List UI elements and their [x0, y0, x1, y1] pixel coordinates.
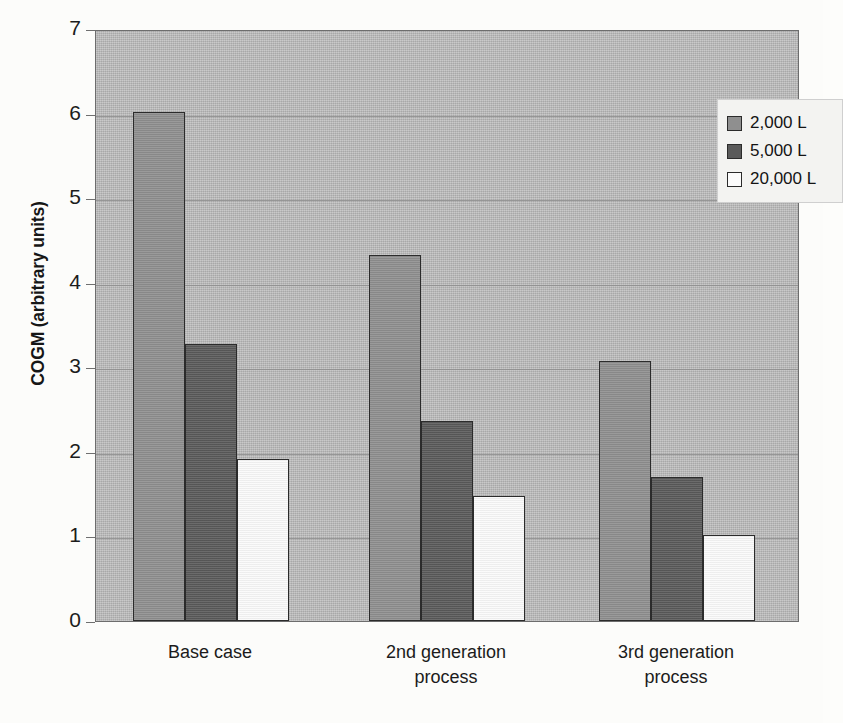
y-axis-tick-mark: [86, 537, 95, 538]
y-axis-tick-label: 4: [21, 270, 81, 294]
y-axis-tick-label: 3: [21, 354, 81, 378]
x-axis-category-label-line: process: [336, 665, 556, 690]
y-axis-tick-label: 6: [21, 101, 81, 125]
legend-label-2000l: 2,000 L: [750, 113, 807, 133]
y-axis-tick-label: 7: [21, 16, 81, 40]
bar: [599, 361, 651, 621]
y-axis-tick-mark: [86, 284, 95, 285]
legend-label-5000l: 5,000 L: [750, 141, 807, 161]
x-axis-category-label-line: 2nd generation: [336, 640, 556, 665]
x-axis-category-label: 3rd generationprocess: [566, 640, 786, 690]
legend-swatch-5000l: [727, 144, 742, 159]
bar: [473, 496, 525, 621]
legend-item: 2,000 L: [727, 109, 832, 137]
x-axis-category-label-line: 3rd generation: [566, 640, 786, 665]
legend-label-20000l: 20,000 L: [750, 169, 816, 189]
bar: [133, 112, 185, 621]
y-axis-tick-mark: [86, 368, 95, 369]
y-axis-tick-mark: [86, 622, 95, 623]
y-axis-tick-label: 2: [21, 439, 81, 463]
x-axis-category-label-line: process: [566, 665, 786, 690]
y-axis-tick-mark: [86, 115, 95, 116]
grid-line: [96, 200, 798, 201]
bar: [237, 459, 289, 621]
bar: [369, 255, 421, 621]
y-axis-tick-mark: [86, 453, 95, 454]
legend-swatch-20000l: [727, 172, 742, 187]
grid-line: [96, 116, 798, 117]
y-axis-tick-mark: [86, 199, 95, 200]
y-axis-tick-label: 1: [21, 523, 81, 547]
bar: [703, 535, 755, 621]
legend-swatch-2000l: [727, 116, 742, 131]
y-axis-tick-label: 0: [21, 608, 81, 632]
bar: [185, 344, 237, 621]
x-axis-category-label: 2nd generationprocess: [336, 640, 556, 690]
y-axis-tick-label: 5: [21, 185, 81, 209]
x-axis-category-label-line: Base case: [100, 640, 320, 665]
grid-line: [96, 285, 798, 286]
legend-item: 5,000 L: [727, 137, 832, 165]
legend-item: 20,000 L: [727, 165, 832, 193]
bar: [421, 421, 473, 621]
legend: 2,000 L 5,000 L 20,000 L: [717, 99, 843, 203]
y-axis-tick-mark: [86, 30, 95, 31]
bar: [651, 477, 703, 621]
x-axis-category-label: Base case: [100, 640, 320, 665]
plot-area: 2,000 L 5,000 L 20,000 L: [95, 30, 799, 622]
